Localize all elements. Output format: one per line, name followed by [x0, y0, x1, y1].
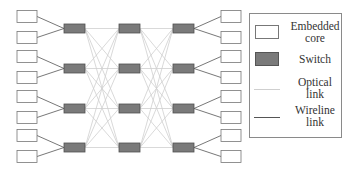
switch: [119, 24, 140, 33]
switch: [173, 143, 194, 152]
switch: [64, 104, 85, 113]
wireline-link: [194, 136, 221, 148]
legend: Embedded core Switch Optical link Wireli…: [249, 13, 342, 138]
embedded-core: [221, 91, 241, 103]
wireline-link: [194, 69, 221, 78]
switch-swatch: [255, 52, 279, 66]
wireline-link: [37, 97, 64, 109]
wireline-link: [37, 29, 64, 38]
embedded-core: [17, 51, 37, 63]
legend-label: Optical link: [288, 76, 342, 100]
wireline-link: [37, 69, 64, 78]
wireline-link: [194, 97, 221, 109]
embedded-core: [221, 151, 241, 163]
wireline-link-swatch: [254, 117, 280, 118]
embedded-core: [221, 11, 241, 23]
embedded-core: [221, 72, 241, 84]
wireline-link: [194, 29, 221, 38]
switch: [64, 64, 85, 73]
switch: [173, 24, 194, 33]
wireline-link: [37, 136, 64, 148]
optical-links: [85, 29, 173, 148]
switch: [64, 143, 85, 152]
wireline-link: [37, 57, 64, 69]
wireline-link: [194, 17, 221, 29]
wireline-link: [37, 148, 64, 157]
embedded-core: [221, 112, 241, 124]
switch: [119, 143, 140, 152]
switch: [119, 64, 140, 73]
embedded-core: [17, 151, 37, 163]
embedded-core-swatch: [255, 25, 279, 39]
legend-label: Wireline link: [288, 104, 342, 128]
wireline-links: [37, 17, 221, 157]
wireline-link: [37, 109, 64, 118]
embedded-core: [17, 32, 37, 44]
embedded-core: [221, 32, 241, 44]
embedded-core: [221, 51, 241, 63]
switch: [119, 104, 140, 113]
wireline-link: [194, 109, 221, 118]
wireline-link: [194, 148, 221, 157]
wireline-link: [37, 17, 64, 29]
switches: [64, 24, 194, 152]
embedded-core: [221, 130, 241, 142]
optical-link-swatch: [254, 89, 280, 90]
switch: [173, 104, 194, 113]
switch: [64, 24, 85, 33]
wireline-link: [194, 57, 221, 69]
switch: [173, 64, 194, 73]
embedded-core: [17, 11, 37, 23]
embedded-core: [17, 130, 37, 142]
embedded-core: [17, 112, 37, 124]
legend-label: Embedded core: [288, 20, 342, 44]
legend-label: Switch: [288, 53, 342, 65]
embedded-core: [17, 72, 37, 84]
embedded-core: [17, 91, 37, 103]
